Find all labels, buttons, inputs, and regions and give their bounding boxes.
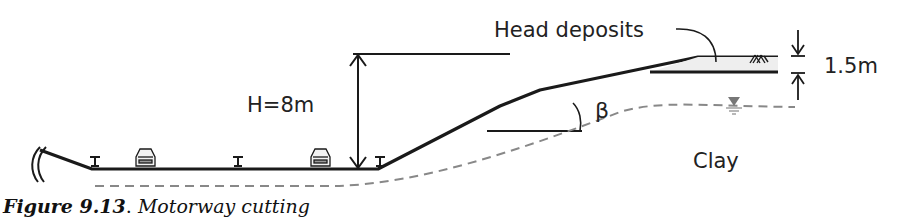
water-table-icon [726, 97, 742, 114]
figure-caption: Figure 9.13. Motorway cutting [3, 195, 310, 217]
height-label: H=8m [247, 93, 314, 117]
caption-title: Motorway cutting [138, 195, 310, 217]
water-table-line [95, 105, 795, 186]
angle-label: β [595, 98, 609, 123]
head-deposits-label: Head deposits [494, 18, 644, 42]
soil-label: Clay [693, 149, 739, 173]
barrier-icon [233, 156, 243, 167]
barrier-icon [375, 156, 385, 167]
thickness-label: 1.5m [824, 54, 878, 78]
caption-separator: . [126, 195, 138, 217]
height-dimension-arrow [350, 55, 366, 168]
car-icon [311, 149, 330, 166]
caption-number: Figure 9.13 [3, 195, 126, 217]
thickness-dimension-arrows [791, 30, 805, 100]
angle-arc [573, 103, 581, 131]
car-icon [136, 149, 155, 166]
barrier-icon [90, 156, 100, 167]
motorway-cutting-diagram: H=8m Head deposits 1.5m β Clay Figure 9.… [0, 0, 913, 222]
